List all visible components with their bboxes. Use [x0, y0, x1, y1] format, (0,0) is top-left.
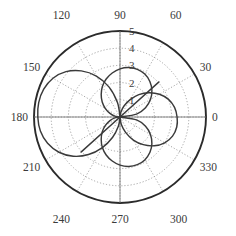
- grid-spoke-60deg: [120, 43, 163, 117]
- theta-tick-label-180: 180: [11, 111, 29, 123]
- theta-tick-label-30: 30: [200, 61, 212, 73]
- theta-tick-label-210: 210: [23, 161, 41, 173]
- theta-tick-label-150: 150: [23, 61, 41, 73]
- grid-spoke-210deg: [46, 117, 120, 160]
- r-tick-label-2: 2: [129, 77, 135, 89]
- theta-tick-label-240: 240: [53, 213, 71, 225]
- grid-spoke-300deg: [120, 117, 163, 191]
- polar-plot-figure: 030609012015018021024027030033012345: [0, 0, 236, 236]
- theta-tick-label-120: 120: [53, 9, 71, 21]
- curve-pattern-cross-lobe-lower: [101, 68, 152, 117]
- grid-spoke-240deg: [77, 117, 120, 191]
- r-tick-label-1: 1: [129, 94, 135, 106]
- theta-tick-label-300: 300: [170, 213, 188, 225]
- grid-spoke-120deg: [77, 43, 120, 117]
- polar-plot-canvas: 030609012015018021024027030033012345: [0, 0, 236, 236]
- curve-lobe-chord-upper-right: [120, 82, 159, 117]
- r-tick-label-5: 5: [129, 25, 135, 37]
- theta-tick-label-90: 90: [114, 9, 126, 21]
- r-tick-label-4: 4: [129, 42, 135, 54]
- theta-tick-label-60: 60: [170, 9, 182, 21]
- grid-spoke-150deg: [46, 74, 120, 117]
- curve-pattern-lobe-left: [38, 70, 120, 156]
- theta-tick-label-270: 270: [111, 213, 129, 225]
- theta-tick-label-330: 330: [200, 161, 218, 173]
- r-tick-label-3: 3: [129, 59, 135, 71]
- theta-tick-label-0: 0: [212, 111, 218, 123]
